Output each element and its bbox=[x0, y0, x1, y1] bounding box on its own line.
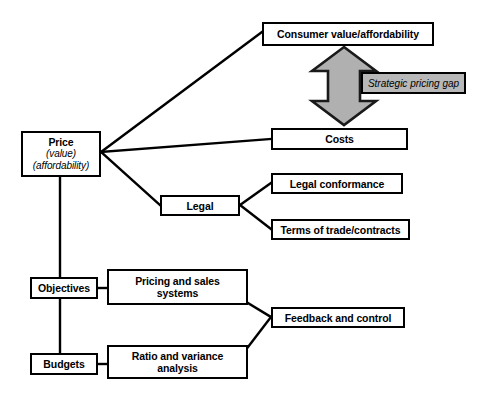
node-terms-of-trade-contracts[interactable]: Terms of trade/contracts bbox=[271, 219, 410, 240]
node-label: Pricing and sales bbox=[135, 275, 220, 287]
node-label: Consumer value/affordability bbox=[277, 28, 419, 40]
node-label: Budgets bbox=[43, 358, 84, 370]
edge-legal-to-legal-conformance bbox=[240, 183, 271, 205]
node-label: Feedback and control bbox=[285, 312, 392, 324]
node-consumer-value-affordability[interactable]: Consumer value/affordability bbox=[262, 22, 434, 46]
diagram-canvas: Strategic pricing gap Consumer value/aff… bbox=[0, 0, 491, 399]
node-sublabel-affordability: (affordability) bbox=[33, 160, 89, 172]
node-pricing-and-sales-systems[interactable]: Pricing and sales systems bbox=[107, 269, 248, 305]
node-feedback-and-control[interactable]: Feedback and control bbox=[271, 307, 405, 328]
edge-price-to-legal bbox=[101, 152, 160, 205]
node-label: Price bbox=[48, 136, 73, 148]
edge-legal-to-terms-of-trade bbox=[240, 205, 271, 229]
node-budgets[interactable]: Budgets bbox=[30, 353, 98, 375]
node-label: Legal conformance bbox=[290, 178, 385, 190]
node-legal-conformance[interactable]: Legal conformance bbox=[271, 173, 403, 194]
edge-price-to-consumer-value bbox=[101, 32, 262, 152]
node-label: Legal bbox=[187, 200, 214, 212]
node-label-line2: systems bbox=[157, 287, 198, 299]
node-sublabel-value: (value) bbox=[46, 148, 76, 160]
node-label-line2: analysis bbox=[157, 362, 198, 374]
node-costs[interactable]: Costs bbox=[271, 128, 408, 150]
node-label: Costs bbox=[325, 133, 354, 145]
connector-lines bbox=[0, 0, 491, 399]
node-price[interactable]: Price (value) (affordability) bbox=[21, 131, 101, 177]
node-ratio-and-variance-analysis[interactable]: Ratio and variance analysis bbox=[107, 345, 248, 379]
node-legal[interactable]: Legal bbox=[160, 195, 240, 216]
node-label: Objectives bbox=[38, 282, 90, 294]
edge-ratio-variance-to-feedback bbox=[248, 317, 271, 347]
node-label: Ratio and variance bbox=[132, 350, 224, 362]
edge-price-to-costs bbox=[101, 139, 271, 152]
edge-pricing-sales-to-feedback bbox=[248, 303, 271, 317]
strategic-pricing-gap-label: Strategic pricing gap bbox=[361, 72, 466, 94]
node-label: Terms of trade/contracts bbox=[281, 224, 401, 236]
node-objectives[interactable]: Objectives bbox=[30, 277, 98, 299]
strategic-pricing-gap-text: Strategic pricing gap bbox=[368, 78, 459, 89]
